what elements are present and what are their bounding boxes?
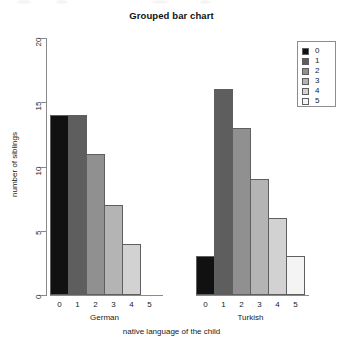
legend-item-4[interactable]: 4 [302, 86, 334, 96]
x-label-german-3: 3 [105, 300, 123, 309]
x-label-turkish-3: 3 [251, 300, 269, 309]
bar-turkish-0[interactable] [196, 256, 215, 295]
legend-swatch-0 [302, 48, 309, 55]
chart-title: Grouped bar chart [0, 10, 343, 21]
x-label-turkish-4: 4 [269, 300, 287, 309]
y-tick-label-10: 10 [34, 166, 43, 196]
x-axis-title: native language of the child [0, 327, 343, 336]
bar-german-0[interactable] [50, 115, 69, 295]
x-label-german-0: 0 [51, 300, 69, 309]
bar-turkish-1[interactable] [214, 89, 233, 295]
y-tick-label-15: 15 [34, 102, 43, 132]
x-label-turkish-5: 5 [287, 300, 305, 309]
legend-item-1[interactable]: 1 [302, 56, 334, 66]
x-label-turkish-2: 2 [233, 300, 251, 309]
bar-german-4[interactable] [122, 244, 141, 295]
legend-swatch-3 [302, 78, 309, 85]
legend-item-2[interactable]: 2 [302, 66, 334, 76]
y-tick-label-20: 20 [34, 38, 43, 68]
bar-turkish-2[interactable] [232, 128, 251, 295]
x-axis-line-german [50, 295, 163, 296]
x-label-german-1: 1 [69, 300, 87, 309]
bar-turkish-3[interactable] [250, 179, 269, 295]
legend[interactable]: 012345 [297, 41, 336, 107]
legend-label-2: 2 [315, 67, 319, 75]
x-label-german-5: 5 [141, 300, 159, 309]
group-label-turkish: Turkish [211, 313, 291, 322]
legend-swatch-1 [302, 58, 309, 65]
legend-label-4: 4 [315, 87, 319, 95]
legend-swatch-2 [302, 68, 309, 75]
bar-turkish-5[interactable] [286, 256, 305, 295]
legend-item-5[interactable]: 5 [302, 96, 334, 106]
y-axis-line [46, 38, 47, 296]
y-tick-label-5: 5 [34, 230, 43, 260]
y-axis-title: number of siblings [10, 105, 19, 225]
x-label-turkish-0: 0 [197, 300, 215, 309]
bar-german-3[interactable] [104, 205, 123, 295]
legend-label-5: 5 [315, 97, 319, 105]
bar-german-1[interactable] [68, 115, 87, 295]
bar-turkish-4[interactable] [268, 218, 287, 295]
grouped-bar-chart: Grouped bar chart 05101520 number of sib… [0, 0, 343, 346]
bar-german-2[interactable] [86, 154, 105, 295]
legend-label-0: 0 [315, 47, 319, 55]
group-label-german: German [65, 313, 145, 322]
legend-item-0[interactable]: 0 [302, 46, 334, 56]
image-edge-artifact [0, 0, 343, 6]
x-label-german-2: 2 [87, 300, 105, 309]
legend-item-3[interactable]: 3 [302, 76, 334, 86]
x-axis-line-turkish [196, 295, 309, 296]
x-label-german-4: 4 [123, 300, 141, 309]
x-label-turkish-1: 1 [215, 300, 233, 309]
legend-swatch-4 [302, 88, 309, 95]
legend-swatch-5 [302, 98, 309, 105]
legend-label-3: 3 [315, 77, 319, 85]
y-tick-label-0: 0 [34, 295, 43, 325]
legend-label-1: 1 [315, 57, 319, 65]
